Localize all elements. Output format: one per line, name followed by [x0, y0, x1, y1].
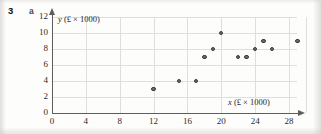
y-axis-label: y (£ × 1000) [58, 14, 100, 24]
y-axis-line [52, 12, 53, 113]
x-axis-label: x (£ × 1000) [228, 97, 270, 107]
y-axis-label-units: (£ × 1000) [64, 14, 100, 24]
y-axis-tick-4: 4 [22, 75, 48, 85]
data-point [295, 39, 299, 43]
x-axis-line [52, 113, 301, 114]
scatter-chart: 024681012 0481216202428 y (£ × 1000) x (… [0, 0, 321, 134]
x-axis-tick-12: 12 [142, 116, 166, 126]
y-axis-tick-8: 8 [22, 43, 48, 53]
x-axis-tick-20: 20 [209, 116, 233, 126]
y-axis-tick-6: 6 [22, 59, 48, 69]
data-point [151, 87, 155, 91]
y-axis-tick-2: 2 [22, 91, 48, 101]
x-axis-tick-labels: 0481216202428 [0, 116, 321, 130]
y-axis-label-variable: y [58, 14, 62, 24]
gridline-horizontal [52, 65, 297, 66]
page-background: 3 a 024681012 0481216202428 y (£ × 1000)… [0, 0, 321, 134]
y-axis-tick-labels: 024681012 [20, 0, 48, 134]
gridline-horizontal [52, 81, 297, 82]
data-point [244, 55, 248, 59]
x-axis-tick-16: 16 [175, 116, 199, 126]
x-axis-arrow-icon [298, 110, 305, 116]
gridline-horizontal [52, 49, 297, 50]
x-axis-tick-24: 24 [243, 116, 267, 126]
x-axis-tick-4: 4 [74, 116, 98, 126]
y-axis-tick-10: 10 [22, 27, 48, 37]
gridline-vertical [306, 17, 307, 113]
y-axis-tick-12: 12 [22, 11, 48, 21]
x-axis-label-variable: x [228, 97, 232, 107]
x-axis-tick-8: 8 [108, 116, 132, 126]
data-point [261, 39, 265, 43]
gridline-horizontal [52, 33, 297, 34]
x-axis-tick-0: 0 [40, 116, 64, 126]
x-axis-tick-28: 28 [277, 116, 301, 126]
y-axis-arrow-icon [49, 8, 55, 15]
data-point [202, 55, 206, 59]
x-axis-label-units: (£ × 1000) [234, 97, 270, 107]
